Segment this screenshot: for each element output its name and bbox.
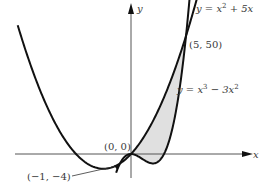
- parabola-equation-label: y = x2 + 5x: [195, 2, 254, 14]
- point-label-origin: (0, 0): [104, 141, 131, 152]
- y-axis-arrow-icon: [128, 3, 134, 14]
- y-axis-label: y: [136, 3, 143, 14]
- x-axis-label: x: [253, 149, 259, 160]
- point-label-5-50: (5, 50): [189, 39, 222, 50]
- diagram-canvas: y x y = x2 + 5x (5, 50) y = x3 − 3x2 (0,…: [0, 0, 263, 187]
- cubic-equation-label: y = x3 − 3x2: [176, 83, 239, 95]
- x-axis-arrow-icon: [242, 151, 253, 157]
- point-label-neg1-neg4: (−1, −4): [27, 171, 71, 182]
- area-between-curves-diagram: y x y = x2 + 5x (5, 50) y = x3 − 3x2 (0,…: [0, 0, 263, 187]
